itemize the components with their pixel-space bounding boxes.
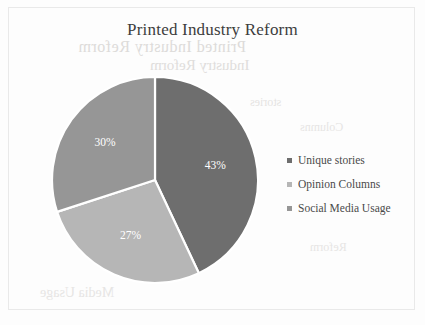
pie-slice-label: 30% — [94, 136, 116, 148]
legend-swatch-icon — [287, 206, 292, 211]
legend-swatch-icon — [287, 182, 292, 187]
legend-swatch-icon — [287, 158, 292, 163]
pie-slice-group — [52, 77, 258, 283]
legend-item-label: Opinion Columns — [298, 178, 380, 190]
legend-item[interactable]: Opinion Columns — [287, 174, 417, 194]
pie-slice-label: 27% — [120, 229, 142, 241]
pie-slice-label: 43% — [205, 159, 227, 171]
legend-item[interactable]: Unique stories — [287, 150, 417, 170]
chart-page: Printed Industry Reform Industry Reform … — [0, 0, 425, 325]
chart-title: Printed Industry Reform — [0, 20, 425, 40]
legend-item-label: Social Media Usage — [298, 202, 391, 214]
chart-legend: Unique storiesOpinion ColumnsSocial Medi… — [287, 150, 417, 222]
pie-chart: 43%27%30% — [50, 75, 260, 285]
legend-item-label: Unique stories — [298, 154, 365, 166]
legend-item[interactable]: Social Media Usage — [287, 198, 417, 218]
pie-chart-svg: 43%27%30% — [50, 75, 260, 285]
